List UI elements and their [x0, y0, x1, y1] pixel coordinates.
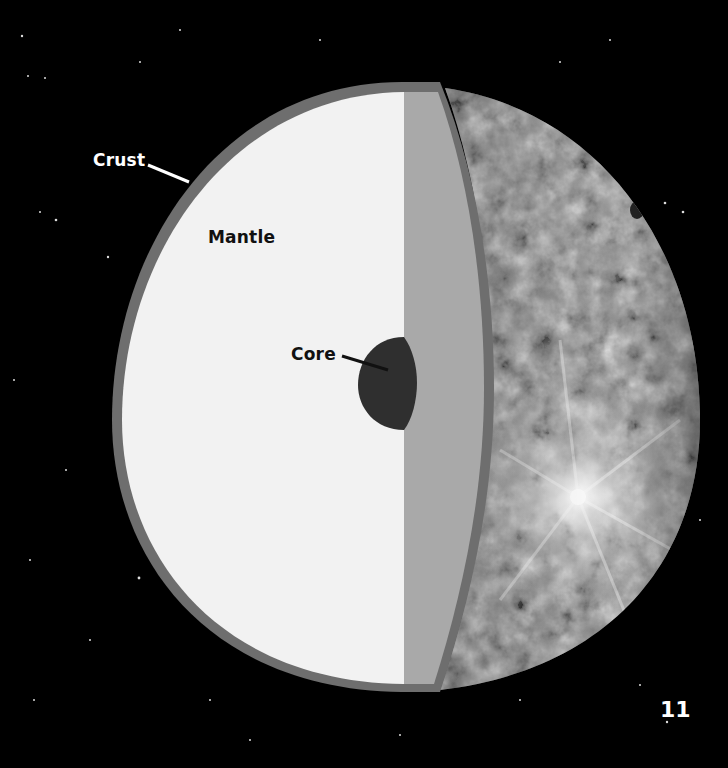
page-number: 11	[660, 697, 691, 722]
moon-cutaway-illustration	[0, 0, 728, 768]
core-label: Core	[291, 344, 336, 364]
crust-leader-line	[148, 165, 189, 182]
moon-diagram: Crust Mantle Core 11	[0, 0, 728, 768]
crust-label: Crust	[93, 150, 145, 170]
mantle-label: Mantle	[208, 227, 275, 247]
